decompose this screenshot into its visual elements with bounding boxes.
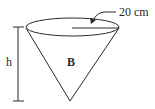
cone-left-edge: [26, 28, 70, 101]
cone-right-edge: [70, 28, 119, 101]
cone-top-ellipse: [26, 18, 119, 36]
height-label: h: [6, 56, 12, 68]
cone-label: B: [67, 56, 75, 68]
cone-diagram: 20 cm h B: [0, 0, 155, 109]
radius-label: 20 cm: [119, 6, 149, 18]
